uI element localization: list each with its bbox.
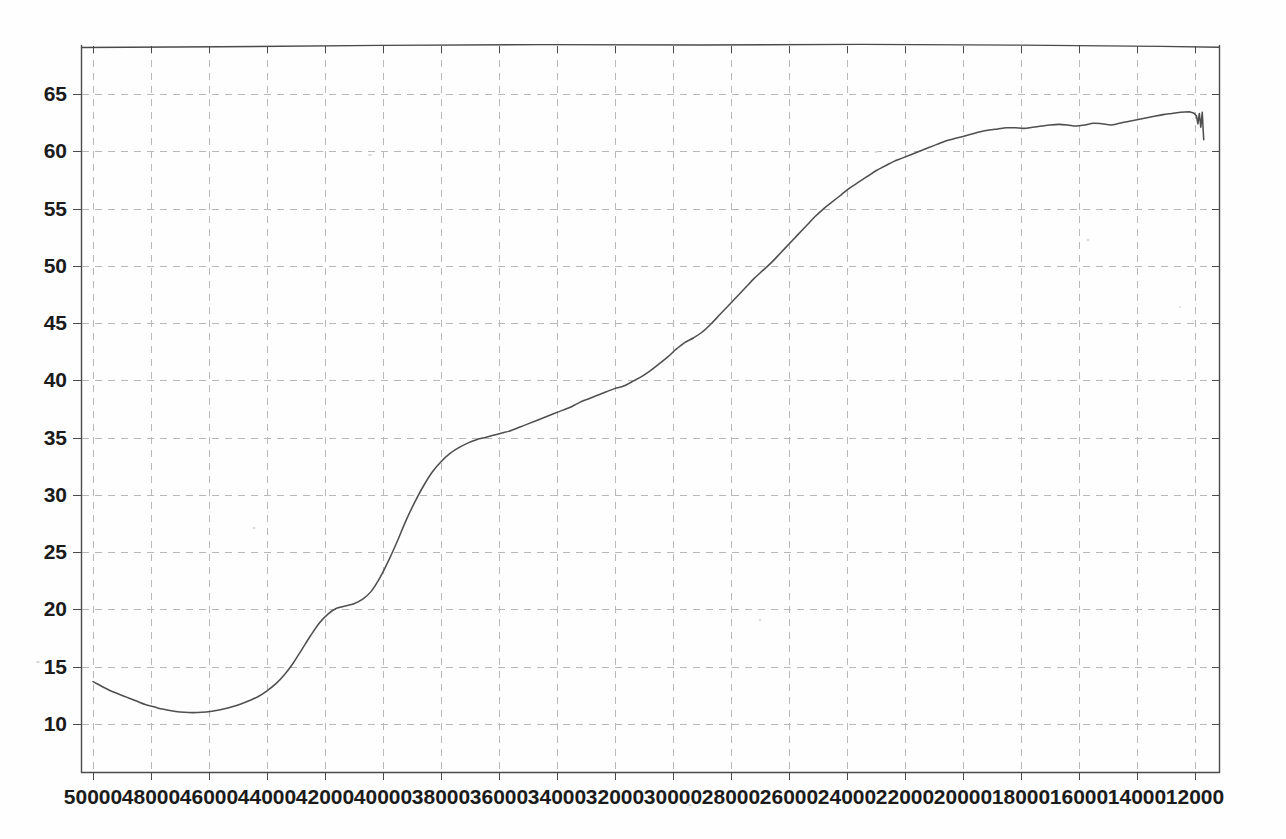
x-tick-label: 40000 (354, 785, 412, 808)
chart-page: 656055504540353025201510 500004800046000… (0, 0, 1286, 839)
plot-top-border (81, 44, 1220, 47)
scan-speck (874, 151, 878, 153)
chart-canvas: 656055504540353025201510 500004800046000… (0, 0, 1286, 839)
x-tick-label: 26000 (760, 785, 818, 808)
y-tick-label: 45 (44, 311, 68, 334)
y-tick-label: 50 (44, 254, 67, 277)
scan-speck (688, 804, 692, 806)
y-tick-label: 10 (44, 712, 67, 735)
x-tick-label: 32000 (586, 785, 644, 808)
x-tick-label: 34000 (528, 785, 586, 808)
x-tick-label: 28000 (702, 785, 760, 808)
x-tick-label: 30000 (644, 785, 702, 808)
y-tick-label: 60 (44, 139, 67, 162)
axis-ticks (73, 46, 1219, 780)
scan-speck (252, 527, 255, 529)
x-tick-label: 16000 (1050, 785, 1108, 808)
scan-speck (368, 154, 372, 156)
scan-speck (758, 619, 761, 621)
y-tick-label: 25 (44, 540, 68, 563)
y-tick-label: 35 (44, 426, 68, 449)
x-tick-label: 36000 (470, 785, 528, 808)
y-tick-label: 20 (44, 597, 67, 620)
data-series-line (93, 112, 1204, 713)
grid-lines (82, 47, 1219, 772)
x-tick-label: 48000 (122, 785, 180, 808)
x-tick-label: 18000 (992, 785, 1050, 808)
spectrum-chart: 656055504540353025201510 500004800046000… (0, 0, 1286, 839)
x-tick-label: 44000 (238, 785, 296, 808)
y-tick-label: 40 (44, 368, 67, 391)
x-tick-label: 20000 (934, 785, 992, 808)
y-tick-label: 30 (44, 483, 67, 506)
x-tick-label: 12000 (1166, 785, 1224, 808)
x-axis-tick-labels: 5000048000460004400042000400003800036000… (64, 785, 1224, 808)
x-tick-label: 24000 (818, 785, 876, 808)
y-axis-tick-labels: 656055504540353025201510 (44, 82, 68, 735)
axis-frame (81, 44, 1220, 773)
scan-speck (1087, 239, 1090, 241)
spectrum-curve (93, 112, 1204, 713)
y-tick-label: 15 (44, 655, 68, 678)
y-tick-label: 65 (44, 82, 68, 105)
scan-speck (36, 661, 40, 663)
x-tick-label: 42000 (296, 785, 354, 808)
x-tick-label: 46000 (180, 785, 238, 808)
y-tick-label: 55 (44, 197, 68, 220)
x-tick-label: 50000 (64, 785, 122, 808)
x-tick-label: 38000 (412, 785, 470, 808)
x-tick-label: 14000 (1108, 785, 1166, 808)
scan-speck (1179, 306, 1182, 308)
scan-artifacts (36, 151, 1182, 806)
x-tick-label: 22000 (876, 785, 934, 808)
